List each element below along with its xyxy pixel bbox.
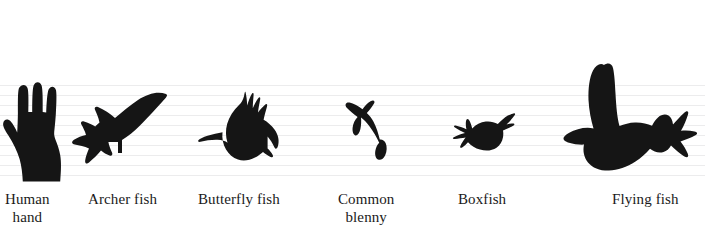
specimen-label-boxfish: Boxfish — [458, 190, 506, 208]
specimen-label-common-blenny: Common blenny — [338, 190, 394, 226]
label-group: Human handArcher fishButterfly fishCommo… — [0, 0, 705, 239]
specimen-label-butterfly-fish: Butterfly fish — [198, 190, 280, 208]
specimen-label-flying-fish: Flying fish — [612, 190, 679, 208]
specimen-label-archer-fish: Archer fish — [88, 190, 157, 208]
specimen-label-human-hand: Human hand — [5, 190, 50, 226]
fish-silhouette-figure: Human handArcher fishButterfly fishCommo… — [0, 0, 705, 239]
